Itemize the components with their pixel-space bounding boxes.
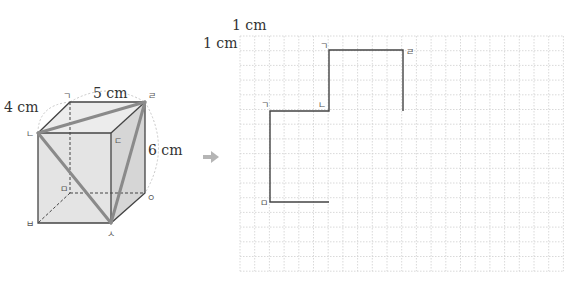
right-arrow-icon	[203, 151, 219, 163]
path-label: ㄱ	[261, 100, 269, 110]
net-diagram: 4 cm 5 cm 6 cm ㄱ ㄹ ㄴ ㄷ ㅁ ㅇ ㅂ ㅅ 1 cm 1 cm…	[0, 0, 584, 298]
vertex-label: ㄱ	[63, 91, 71, 101]
vertex-label: ㅇ	[147, 193, 155, 203]
vertex-label: ㄴ	[26, 129, 34, 139]
vertex-label: ㄹ	[148, 91, 156, 101]
path-label: ㄴ	[318, 100, 326, 110]
path-label: ㄹ	[406, 47, 414, 57]
vertex-label: ㅂ	[26, 219, 34, 229]
vertex-label: ㅁ	[60, 184, 68, 194]
unit-x-label: 1 cm	[232, 17, 266, 33]
grid-paper	[240, 36, 563, 271]
path-label: ㅁ	[260, 198, 268, 208]
unit-y-label: 1 cm	[203, 35, 237, 51]
width-label: 5 cm	[93, 85, 127, 101]
depth-label: 4 cm	[4, 99, 38, 115]
unfolded-path	[270, 50, 403, 202]
height-label: 6 cm	[148, 142, 182, 158]
vertex-label: ㄷ	[114, 136, 122, 146]
vertex-label: ㅅ	[107, 229, 115, 239]
cuboid-figure: 4 cm 5 cm 6 cm ㄱ ㄹ ㄴ ㄷ ㅁ ㅇ ㅂ ㅅ	[4, 85, 182, 239]
path-label: ㄱ	[320, 41, 328, 51]
